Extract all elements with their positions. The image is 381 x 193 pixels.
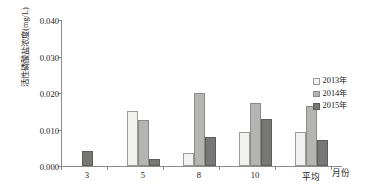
bar-平均-2013年 <box>295 132 306 166</box>
y-tick-label-4: 0.040 <box>29 16 59 26</box>
x-axis-line <box>61 166 342 167</box>
x-tick-3 <box>219 166 220 170</box>
bar-5-2013年 <box>127 111 138 166</box>
legend: 2013年 2014年 2015年 <box>313 75 347 113</box>
bar-10-2014年 <box>250 103 261 166</box>
bar-group-8 <box>179 20 219 166</box>
legend-label-2013: 2013年 <box>323 75 348 88</box>
legend-swatch-2013-icon <box>313 78 320 85</box>
legend-swatch-2014-icon <box>313 91 320 98</box>
legend-item-2013: 2013年 <box>313 75 347 88</box>
bar-8-2015年 <box>205 137 216 166</box>
y-tick-label-2: 0.020 <box>29 89 59 99</box>
x-axis-title: 月份 <box>332 166 350 178</box>
x-tick-1 <box>107 166 108 170</box>
x-tick-label-4: 平均 <box>291 170 331 182</box>
legend-item-2015: 2015年 <box>313 100 347 113</box>
x-tick-label-2: 8 <box>179 170 219 180</box>
bar-平均-2014年 <box>306 106 317 166</box>
bar-group-5 <box>123 20 163 166</box>
y-tick-label-0: 0.000 <box>29 162 59 172</box>
x-tick-label-0: 3 <box>67 170 107 180</box>
x-tick-label-3: 10 <box>235 170 275 180</box>
plot-area: 0.000 0.010 0.020 0.030 0.040 3 5 8 10 平… <box>61 20 342 167</box>
legend-swatch-2015-icon <box>313 103 320 110</box>
bar-3-2015年 <box>82 151 93 166</box>
bar-10-2013年 <box>239 132 250 166</box>
bar-8-2013年 <box>183 153 194 166</box>
legend-label-2014: 2014年 <box>323 88 348 101</box>
legend-label-2015: 2015年 <box>323 100 348 113</box>
bar-group-3 <box>67 20 107 166</box>
bar-8-2014年 <box>194 93 205 166</box>
legend-item-2014: 2014年 <box>313 88 347 101</box>
x-tick-2 <box>163 166 164 170</box>
y-tick-label-1: 0.010 <box>29 126 59 136</box>
y-tick-label-3: 0.030 <box>29 53 59 63</box>
x-tick-0 <box>61 166 62 170</box>
bar-5-2014年 <box>138 120 149 166</box>
bar-chart: 活性磷酸盐浓度(mg/L) 0.000 0.010 0.020 0.030 0.… <box>0 0 381 193</box>
bar-group-10 <box>235 20 275 166</box>
bar-平均-2015年 <box>317 140 328 166</box>
bar-5-2015年 <box>149 159 160 166</box>
x-tick-label-1: 5 <box>123 170 163 180</box>
bar-10-2015年 <box>261 119 272 166</box>
x-tick-4 <box>275 166 276 170</box>
